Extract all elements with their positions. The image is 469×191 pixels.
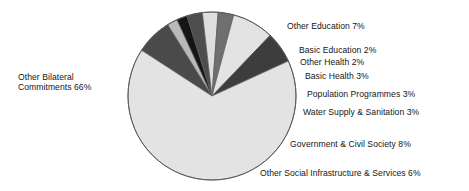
slice-label-population-programmes: Population Programmes 3% <box>307 89 415 100</box>
slice-label-water-supply-sanitation: Water Supply & Sanitation 3% <box>303 107 419 118</box>
slice-label-government-civil-society: Government & Civil Society 8% <box>290 139 411 150</box>
slice-label-other-bilateral-commitments: Other Bilateral Commitments 66% <box>18 72 91 93</box>
slice-label-other-education: Other Education 7% <box>287 21 365 32</box>
slice-label-other-social-infrastructure-services: Other Social Infrastructure & Services 6… <box>260 168 421 179</box>
slice-label-basic-health: Basic Health 3% <box>305 71 369 82</box>
slice-label-other-health: Other Health 2% <box>300 57 364 68</box>
slice-label-basic-education: Basic Education 2% <box>299 45 376 56</box>
pie-chart: Other Education 7% Basic Education 2% Ot… <box>0 0 469 191</box>
pie-slice-group <box>128 12 296 180</box>
